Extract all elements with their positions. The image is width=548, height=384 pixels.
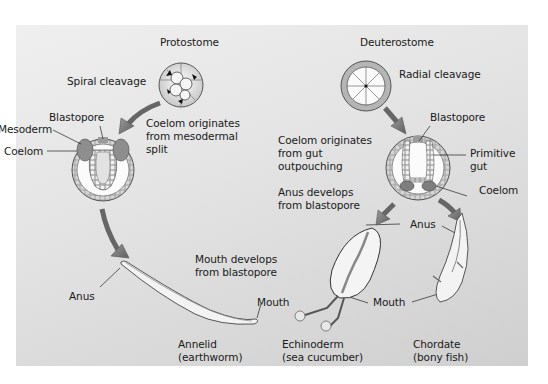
echinoderm-organism-label: Echinoderm (sea cucumber) xyxy=(282,338,363,364)
coelom-gut-outpouching-label: Coelom originates from gut outpouching xyxy=(278,134,372,173)
chordate-organism-label: Chordate (bony fish) xyxy=(413,338,468,364)
deuterostome-mouth-label: Mouth xyxy=(373,296,405,309)
protostome-coelom-label: Coelom xyxy=(4,145,43,158)
anus-from-blastopore-label: Anus develops from blastopore xyxy=(278,186,360,212)
annelid-organism-label: Annelid (earthworm) xyxy=(178,338,242,364)
primitive-gut-label: Primitive gut xyxy=(470,147,515,173)
deuterostome-title: Deuterostome xyxy=(360,36,434,49)
arrow-radial-to-gastrula xyxy=(385,108,406,134)
spiral-cleavage-egg xyxy=(159,63,203,107)
mouth-from-blastopore-label: Mouth develops from blastopore xyxy=(195,253,277,279)
deuterostome-gastrula xyxy=(386,136,450,200)
annelid-mouth-label: Mouth xyxy=(257,296,289,309)
radial-cleavage-egg xyxy=(341,61,391,111)
coelom-mesodermal-split-label: Coelom originates from mesodermal split xyxy=(146,117,240,156)
radial-cleavage-label: Radial cleavage xyxy=(399,68,481,81)
spiral-cleavage-label: Spiral cleavage xyxy=(67,75,146,88)
mesoderm-label: Mesoderm xyxy=(0,123,52,136)
protostome-blastopore-label: Blastopore xyxy=(49,111,104,124)
embryo-development-diagram xyxy=(0,0,548,384)
arrow-gastrula-to-worm xyxy=(102,209,129,258)
annelid-anus-label: Anus xyxy=(69,290,95,303)
deuterostome-coelom-label: Coelom xyxy=(479,184,518,197)
protostome-gastrula xyxy=(72,137,134,201)
protostome-title: Protostome xyxy=(160,36,219,49)
sea-cucumber xyxy=(295,228,381,331)
deuterostome-anus-label: Anus xyxy=(410,218,436,231)
bony-fish xyxy=(433,213,468,302)
deuterostome-blastopore-label: Blastopore xyxy=(430,111,485,124)
arrow-gastrula-to-echinoderm xyxy=(376,204,394,225)
